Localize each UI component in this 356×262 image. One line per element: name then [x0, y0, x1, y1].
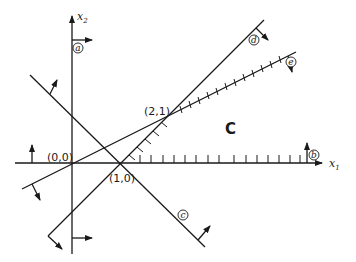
svg-text:a: a: [75, 43, 80, 53]
svg-text:e: e: [288, 57, 293, 67]
x1-axis-label: x1: [329, 157, 340, 172]
point-label-1-0: (1,0): [109, 172, 135, 185]
svg-text:b: b: [311, 150, 317, 160]
x2-axis-label: x2: [77, 10, 88, 25]
constraint-b: b: [32, 143, 319, 163]
point-label-origin: (0,0): [47, 151, 73, 164]
hatch-x1: [140, 155, 300, 163]
point-label-2-1: (2,1): [144, 105, 170, 118]
svg-text:c: c: [180, 210, 185, 220]
svg-text:d: d: [251, 35, 257, 45]
feasible-region-label: C: [225, 120, 236, 138]
constraint-e: e: [22, 52, 296, 200]
lp-diagram: x2 x1 a b c: [0, 0, 356, 262]
hatch-d: [129, 122, 167, 160]
